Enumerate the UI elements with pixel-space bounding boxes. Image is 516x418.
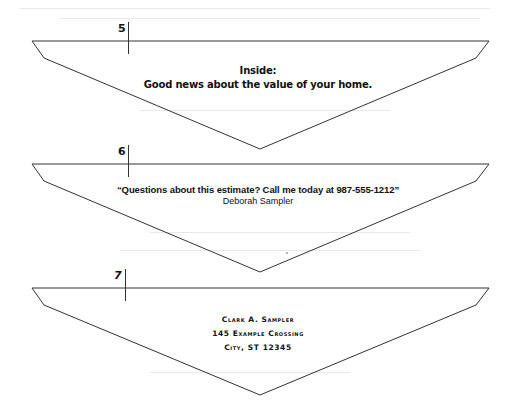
flap-heading: Inside: <box>0 66 516 76</box>
panel-number-5: 5 <box>118 23 126 34</box>
agent-quote: “Questions about this estimate? Call me … <box>0 185 516 195</box>
agent-name: Deborah Sampler <box>0 197 516 206</box>
address-city-state-zip: City, ST 12345 <box>0 344 516 352</box>
flap-teaser-text: Good news about the value of your home. <box>0 80 516 90</box>
address-street: 145 Example Crossing <box>0 330 516 338</box>
scan-speck <box>286 252 288 254</box>
panel-number-6: 6 <box>118 146 126 157</box>
address-name: Clark A. Sampler <box>0 316 516 324</box>
envelope-flap-diagrams <box>0 0 516 418</box>
envelope-flap-6 <box>32 164 489 272</box>
envelope-flap-7 <box>32 288 489 395</box>
panel-number-7: 7 <box>114 270 122 281</box>
envelope-flap-5 <box>32 41 489 149</box>
